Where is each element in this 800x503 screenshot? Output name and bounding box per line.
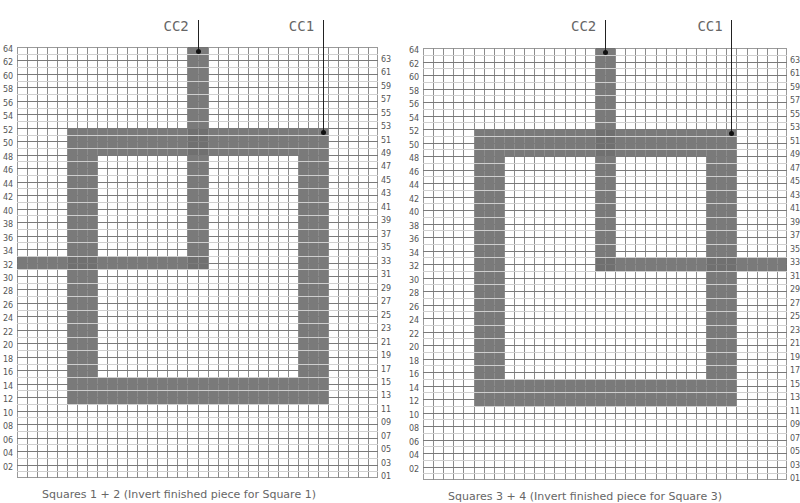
row-number-label: 45 (790, 178, 800, 186)
row-number-label: 35 (790, 246, 800, 254)
cc-label-cc2: CC2 (571, 18, 596, 34)
row-number-label: 06 (409, 439, 419, 447)
cc2-horizontal (595, 257, 787, 271)
row-number-label: 48 (409, 155, 419, 163)
row-number-label: 46 (409, 169, 419, 177)
row-number-label: 64 (409, 47, 419, 55)
row-number-label: 21 (790, 340, 800, 348)
row-number-label: 02 (409, 466, 419, 474)
row-number-label: 30 (409, 277, 419, 285)
row-number-label: 57 (790, 97, 800, 105)
leader-line (605, 20, 606, 52)
row-number-label: 12 (409, 398, 419, 406)
row-number-label: 26 (409, 304, 419, 312)
row-number-label: 34 (409, 250, 419, 258)
row-number-label: 01 (790, 475, 800, 483)
row-number-label: 07 (790, 435, 800, 443)
row-number-label: 04 (409, 452, 419, 460)
square-bottom-band (474, 379, 737, 406)
row-number-label: 13 (790, 394, 800, 402)
row-number-label: 58 (409, 88, 419, 96)
row-number-label: 49 (790, 151, 800, 159)
row-number-label: 59 (790, 84, 800, 92)
row-number-label: 55 (790, 111, 800, 119)
row-number-label: 51 (790, 138, 800, 146)
row-number-label: 09 (790, 421, 800, 429)
row-number-label: 08 (409, 425, 419, 433)
row-number-label: 15 (790, 381, 800, 389)
row-number-label: 10 (409, 412, 419, 420)
row-number-label: 29 (790, 286, 800, 294)
panel-caption: Squares 3 + 4 (Invert finished piece for… (448, 490, 722, 503)
cc2-vertical (595, 48, 615, 271)
row-number-label: 43 (790, 192, 800, 200)
row-number-label: 44 (409, 182, 419, 190)
row-number-label: 53 (790, 124, 800, 132)
row-number-label: 18 (409, 358, 419, 366)
row-number-label: 32 (409, 263, 419, 271)
row-number-label: 62 (409, 61, 419, 69)
row-number-label: 61 (790, 70, 800, 78)
row-number-label: 03 (790, 462, 800, 470)
leader-line (731, 20, 732, 133)
row-number-label: 14 (409, 385, 419, 393)
row-number-label: 36 (409, 236, 419, 244)
row-number-label: 50 (409, 142, 419, 150)
square-left-band (474, 156, 504, 379)
row-number-label: 22 (409, 331, 419, 339)
row-number-label: 20 (409, 344, 419, 352)
row-number-label: 17 (790, 367, 800, 375)
row-number-label: 05 (790, 448, 800, 456)
row-number-label: 60 (409, 74, 419, 82)
row-number-label: 52 (409, 128, 419, 136)
row-number-label: 31 (790, 273, 800, 281)
row-number-label: 37 (790, 232, 800, 240)
row-number-label: 40 (409, 209, 419, 217)
row-number-label: 33 (790, 259, 800, 267)
row-number-label: 27 (790, 300, 800, 308)
row-number-label: 25 (790, 313, 800, 321)
row-number-label: 63 (790, 57, 800, 65)
cc-label-cc1: CC1 (697, 18, 722, 34)
row-number-label: 11 (790, 408, 800, 416)
row-number-label: 23 (790, 327, 800, 335)
row-number-label: 42 (409, 196, 419, 204)
row-number-label: 54 (409, 115, 419, 123)
row-number-label: 16 (409, 371, 419, 379)
row-number-label: 28 (409, 290, 419, 298)
row-number-label: 24 (409, 317, 419, 325)
row-number-label: 39 (790, 219, 800, 227)
row-number-label: 38 (409, 223, 419, 231)
row-number-label: 41 (790, 205, 800, 213)
row-number-label: 47 (790, 165, 800, 173)
row-number-label: 56 (409, 101, 419, 109)
row-number-label: 19 (790, 354, 800, 362)
